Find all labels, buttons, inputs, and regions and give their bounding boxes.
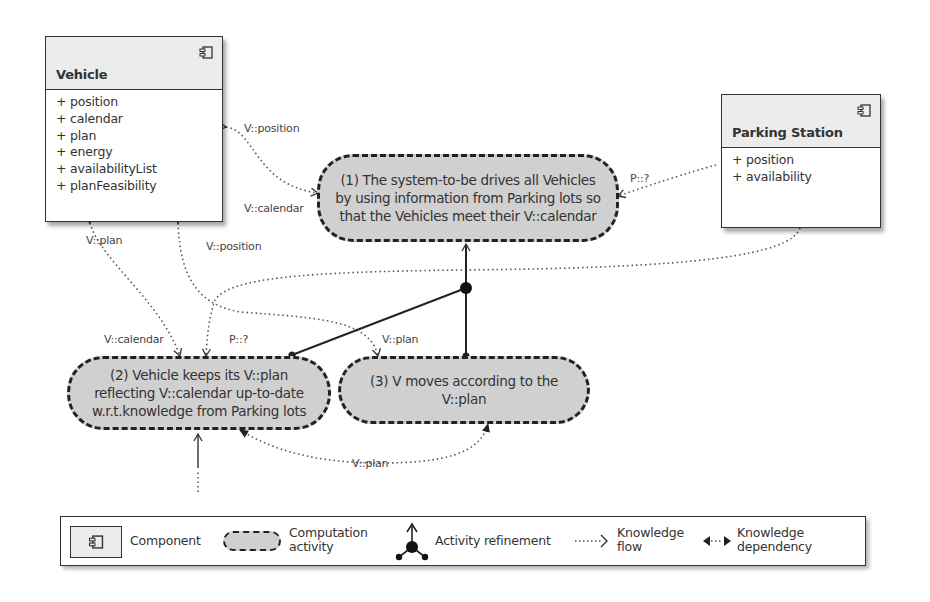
activity-3-text: (3) V moves according to the V::plan (370, 372, 558, 408)
edge-label-v-position-top: V::position (244, 122, 299, 135)
activity-2-text: (2) Vehicle keeps its V::plan reflecting… (92, 366, 306, 420)
flow-v-position-top (226, 127, 318, 193)
attribute: + plan (56, 128, 212, 145)
legend: Component Computation activity Activity … (60, 516, 866, 566)
activity-1-text: (1) The system-to-be drives all Vehicles… (335, 171, 601, 225)
legend-component-label: Component (130, 534, 201, 548)
attribute: + energy (56, 144, 212, 161)
vehicle-attributes: + position + calendar + plan + energy + … (46, 90, 222, 199)
attribute: + calendar (56, 111, 212, 128)
component-icon (88, 535, 104, 549)
edge-label-v-position-mid: V::position (206, 240, 261, 253)
activity-3[interactable]: (3) V moves according to the V::plan (338, 356, 590, 424)
flow-p-q-mid (206, 228, 800, 356)
activity-refinement-icon (391, 521, 433, 563)
activity-1[interactable]: (1) The system-to-be drives all Vehicles… (317, 154, 619, 242)
legend-activity-label: Computation activity (289, 526, 368, 554)
edge-label-v-calendar-top: V::calendar (244, 202, 304, 215)
parking-station-attributes: + position + availability (722, 148, 880, 190)
edge-label-v-plan-left: V::plan (86, 234, 122, 247)
parking-station-component[interactable]: Parking Station + position + availabilit… (721, 94, 881, 228)
component-icon (199, 46, 213, 59)
diagram-canvas: Vehicle + position + calendar + plan + e… (0, 0, 930, 602)
legend-activity-swatch (223, 531, 281, 551)
legend-knowledge-dependency-label: Knowledge dependency (737, 526, 812, 554)
legend-knowledge-flow-label: Knowledge flow (617, 526, 684, 554)
knowledge-dependency-icon (701, 532, 733, 550)
edge-label-v-plan-mid: V::plan (382, 333, 418, 346)
parking-station-header: Parking Station (722, 95, 880, 148)
legend-refinement-label: Activity refinement (435, 534, 551, 548)
attribute: + planFeasibility (56, 178, 212, 195)
attribute: + position (56, 94, 212, 111)
edge-label-v-plan-bottom: V::plan (352, 457, 388, 470)
parking-station-title: Parking Station (732, 125, 843, 140)
vehicle-header: Vehicle (46, 37, 222, 90)
vehicle-component[interactable]: Vehicle + position + calendar + plan + e… (45, 36, 223, 222)
attribute: + availability (732, 169, 870, 186)
edge-label-v-calendar-mid: V::calendar (104, 333, 164, 346)
edge-label-p-q-mid: P::? (229, 333, 248, 346)
attribute: + availabilityList (56, 161, 212, 178)
knowledge-flow-icon (573, 532, 613, 550)
attribute: + position (732, 152, 870, 169)
activity-2[interactable]: (2) Vehicle keeps its V::plan reflecting… (67, 356, 331, 430)
component-icon (857, 104, 871, 117)
vehicle-title: Vehicle (56, 67, 107, 82)
edge-label-p-q-top: P::? (630, 172, 649, 185)
legend-component-swatch (70, 526, 122, 558)
